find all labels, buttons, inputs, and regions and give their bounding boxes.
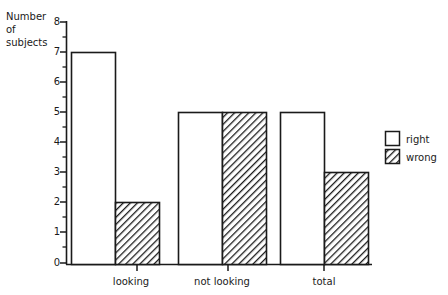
bar-group-total	[281, 113, 369, 265]
bar-looking-right	[72, 53, 116, 265]
legend-swatch-wrong	[386, 150, 400, 164]
bar-total-right	[281, 113, 325, 265]
bar-group-not-looking	[179, 113, 267, 265]
bar-looking-wrong	[116, 203, 160, 265]
legend-swatch-right	[386, 132, 400, 146]
bar-chart: Number of subjects 8 7 6 5 4 3 2 1 0 loo…	[0, 0, 448, 295]
y-axis-major-ticks	[60, 22, 66, 263]
chart-canvas	[0, 0, 448, 295]
bar-group-looking	[72, 53, 160, 265]
bar-not-looking-wrong	[223, 113, 267, 265]
bar-not-looking-right	[179, 113, 223, 265]
legend	[386, 132, 400, 164]
bar-total-wrong	[325, 173, 369, 265]
